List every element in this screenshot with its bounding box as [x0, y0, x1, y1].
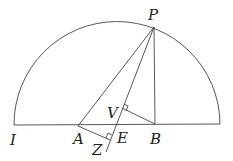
- segment-PB: [154, 27, 155, 124]
- label-A: A: [71, 130, 84, 148]
- segment-PZ: [106, 27, 154, 152]
- segment-VB: [122, 108, 155, 124]
- label-I: I: [9, 131, 17, 149]
- label-P: P: [147, 6, 159, 24]
- label-Z: Z: [91, 141, 103, 159]
- right-angle-mark-V: [124, 104, 128, 111]
- label-V: V: [107, 104, 120, 122]
- geometry-diagram: P I A B E V Z: [0, 0, 233, 161]
- label-B: B: [149, 130, 161, 148]
- label-E: E: [116, 129, 128, 147]
- right-angle-mark-Z: [106, 133, 112, 138]
